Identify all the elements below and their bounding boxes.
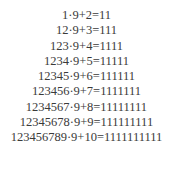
equation-line-4: 1234·9+5=11111 <box>0 54 173 69</box>
equation-line-8: 12345678·9+9=111111111 <box>0 115 173 130</box>
equation-line-9: 123456789·9+10=1111111111 <box>0 130 173 145</box>
equation-line-3: 123·9+4=1111 <box>0 39 173 54</box>
equation-line-2: 12·9+3=111 <box>0 23 173 38</box>
equation-line-1: 1·9+2=11 <box>0 8 173 23</box>
number-pyramid: 1·9+2=11 12·9+3=111 123·9+4=1111 1234·9+… <box>0 8 173 146</box>
equation-line-6: 123456·9+7=1111111 <box>0 84 173 99</box>
equation-line-5: 12345·9+6=111111 <box>0 69 173 84</box>
equation-line-7: 1234567·9+8=11111111 <box>0 100 173 115</box>
